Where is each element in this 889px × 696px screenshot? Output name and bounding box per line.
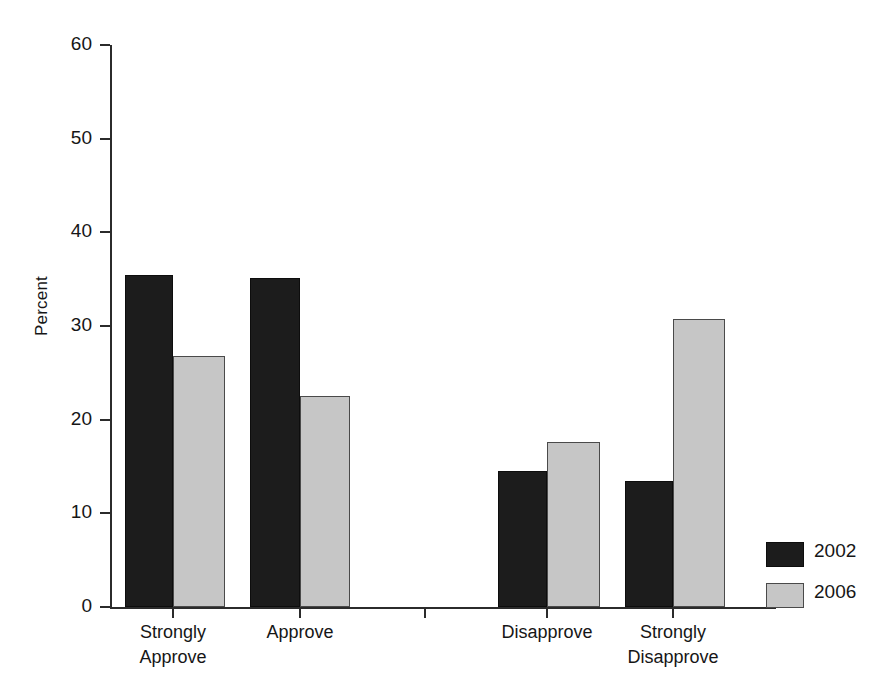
x-tick-mark [299, 607, 301, 618]
y-axis-line [110, 45, 112, 609]
y-tick-mark [100, 138, 110, 140]
legend-swatch-2006 [766, 583, 804, 608]
x-tick-mark [672, 607, 674, 618]
y-tick-mark [100, 325, 110, 327]
x-tick-mark [424, 607, 426, 618]
legend-label-2002: 2002 [814, 540, 856, 562]
y-tick-mark [100, 231, 110, 233]
y-tick-label: 40 [36, 220, 92, 242]
bar [125, 275, 173, 607]
bar [547, 442, 600, 607]
bar [673, 319, 725, 607]
legend-label-2006: 2006 [814, 581, 856, 603]
y-tick-label: 30 [36, 314, 92, 336]
y-tick-mark [100, 606, 110, 608]
bar [300, 396, 350, 607]
x-tick-label-line: Approve [200, 620, 400, 645]
y-tick-label: 0 [36, 595, 92, 617]
y-tick-mark [100, 419, 110, 421]
bar-chart: Percent 0102030405060 StronglyApproveApp… [0, 0, 889, 696]
x-tick-label: StronglyDisapprove [573, 620, 773, 670]
x-axis-line [110, 607, 776, 609]
y-tick-label: 20 [36, 408, 92, 430]
y-tick-mark [100, 44, 110, 46]
x-tick-label-line: Disapprove [573, 645, 773, 670]
bar [498, 471, 547, 607]
x-tick-label: Approve [200, 620, 400, 645]
y-tick-label: 60 [36, 33, 92, 55]
x-tick-label-line: Strongly [573, 620, 773, 645]
x-tick-label-line: Approve [73, 645, 273, 670]
bar [173, 356, 225, 607]
y-tick-mark [100, 512, 110, 514]
legend-swatch-2002 [766, 542, 804, 567]
y-tick-label: 50 [36, 127, 92, 149]
x-tick-mark [172, 607, 174, 618]
bar [250, 278, 300, 607]
bar [625, 481, 673, 607]
y-tick-label: 10 [36, 501, 92, 523]
x-tick-mark [546, 607, 548, 618]
